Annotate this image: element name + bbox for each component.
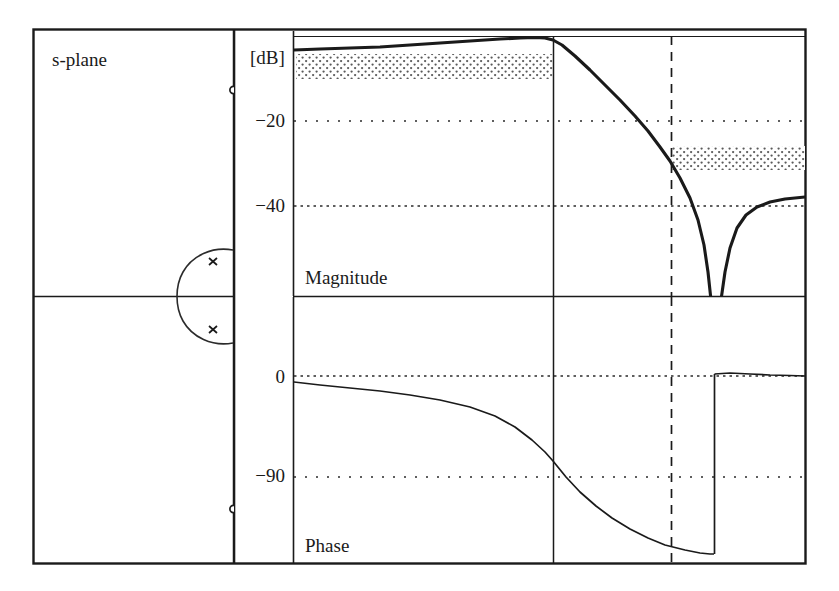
splane-pole-marker <box>209 258 217 265</box>
splane-panel <box>34 30 237 563</box>
splane-panel-title: s-plane <box>52 50 107 69</box>
phase-response-curve <box>294 382 714 554</box>
magnitude-ytick-minus40: −40 <box>225 196 285 215</box>
figure-canvas <box>0 0 839 591</box>
magnitude-unit-label: [dB] <box>250 48 285 67</box>
magnitude-panel <box>293 31 805 366</box>
splane-zero-marker <box>230 86 237 93</box>
phase-response-curve-upper-branch <box>715 373 806 376</box>
magnitude-response-curve <box>294 38 805 367</box>
phase-panel <box>294 297 806 563</box>
filter-design-figure: s-plane [dB] −20 −40 0 −90 Magnitude Pha… <box>0 0 839 591</box>
phase-panel-label: Phase <box>305 536 349 555</box>
passband-tolerance-band <box>296 54 553 79</box>
phase-ytick-minus90: −90 <box>225 466 285 485</box>
splane-zero-marker <box>230 505 237 512</box>
phase-ytick-zero: 0 <box>225 367 285 386</box>
magnitude-ytick-minus20: −20 <box>225 111 285 130</box>
splane-pole-marker <box>209 326 217 333</box>
magnitude-panel-label: Magnitude <box>305 268 387 287</box>
stopband-tolerance-band <box>671 146 805 170</box>
